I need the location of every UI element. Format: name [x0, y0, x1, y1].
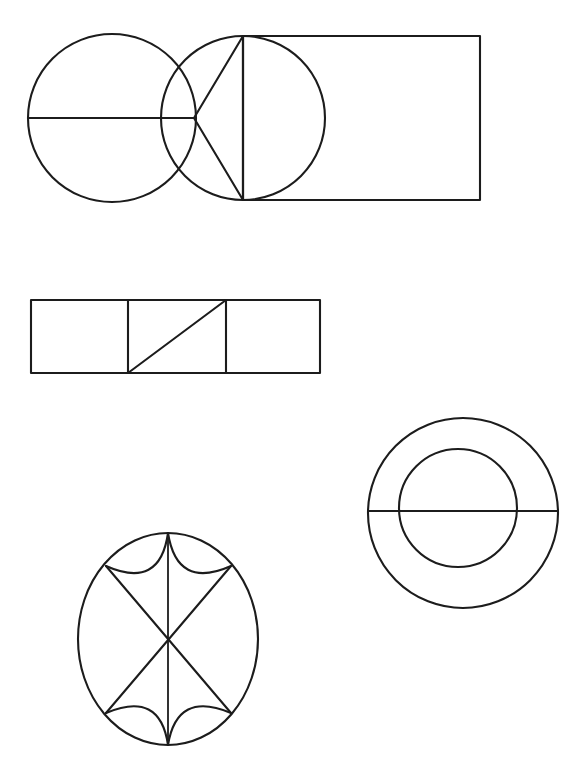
geometric-line-drawing — [0, 0, 578, 768]
figure-middle-three-cell-bar — [31, 300, 320, 373]
drawing-canvas — [0, 0, 578, 768]
annulus-inner-circle — [399, 449, 517, 567]
figure-annulus — [368, 418, 558, 608]
annulus-outer-circle — [368, 418, 558, 608]
top-rectangle — [243, 36, 480, 200]
middle-cell-diagonal — [128, 300, 226, 373]
figure-ellipse-rosette — [78, 533, 258, 745]
figure-top-circle-triangle-rect — [28, 34, 480, 202]
top-triangle — [194, 36, 243, 200]
